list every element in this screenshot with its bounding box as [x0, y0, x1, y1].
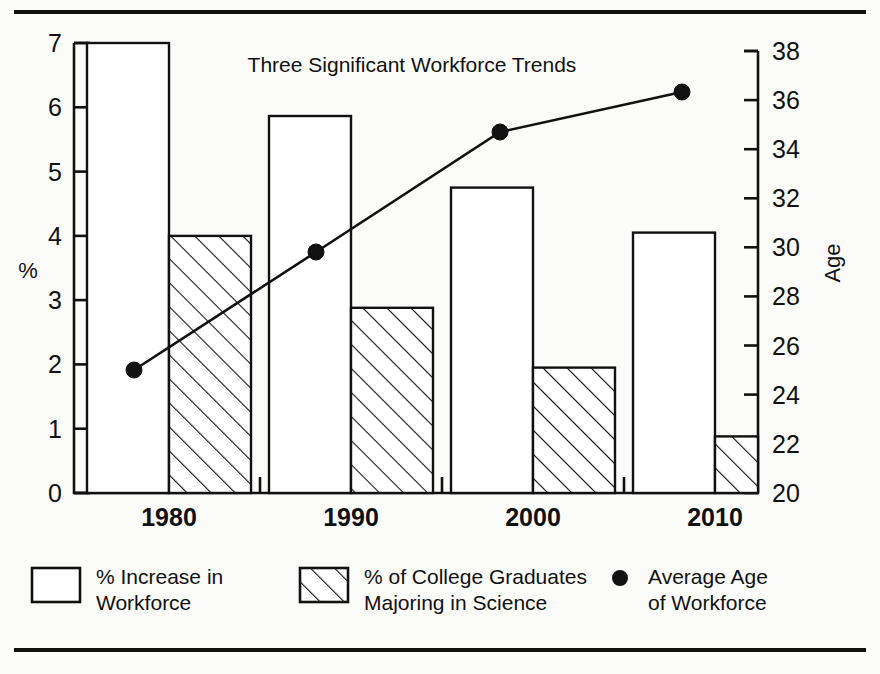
bottom-horizontal-rule	[14, 648, 866, 652]
average-age-point-1990[interactable]	[308, 244, 324, 260]
right-tick-label-20: 20	[772, 479, 800, 507]
legend-item-college-graduates[interactable]: % of College Graduates Majoring in Scien…	[300, 565, 587, 614]
category-label-1990: 1990	[323, 503, 379, 531]
chart-page: 7 6 5 4 3 2 1 0 %	[0, 0, 880, 674]
right-tick-label-32: 32	[772, 184, 800, 212]
average-age-point-2000[interactable]	[492, 124, 508, 140]
hatched-bar-1990[interactable]	[351, 308, 433, 493]
right-tick-label-24: 24	[772, 381, 800, 409]
hatched-square-swatch-icon	[300, 568, 348, 602]
open-square-swatch-icon	[32, 568, 80, 602]
filled-dot-swatch-icon	[612, 570, 628, 586]
left-axis-title: %	[18, 258, 38, 283]
average-age-point-2010[interactable]	[674, 84, 690, 100]
open-bar-2000[interactable]	[451, 188, 533, 493]
average-age-point-1980[interactable]	[126, 362, 142, 378]
left-tick-label-2: 2	[48, 350, 62, 378]
right-tick-label-34: 34	[772, 135, 800, 163]
right-tick-label-28: 28	[772, 282, 800, 310]
right-tick-label-22: 22	[772, 430, 800, 458]
legend-label-increase-line2: Workforce	[96, 591, 191, 614]
category-label-2010: 2010	[687, 503, 743, 531]
legend-label-graduates-line1: % of College Graduates	[364, 565, 587, 588]
left-tick-label-1: 1	[48, 415, 62, 443]
chart-figure: 7 6 5 4 3 2 1 0 %	[0, 18, 880, 638]
right-axis-ticks	[744, 51, 758, 493]
legend-item-increase-in-workforce[interactable]: % Increase in Workforce	[32, 565, 223, 614]
bar-group-1980	[87, 43, 251, 493]
left-tick-label-4: 4	[48, 222, 62, 250]
bar-group-2000	[451, 188, 615, 493]
legend-label-average-age-line2: of Workforce	[648, 591, 767, 614]
open-bar-1980[interactable]	[87, 43, 169, 493]
chart-title: Three Significant Workforce Trends	[248, 53, 577, 76]
hatched-bar-2000[interactable]	[533, 368, 615, 493]
left-axis: 7 6 5 4 3 2 1 0 %	[18, 29, 90, 507]
left-tick-label-7: 7	[48, 29, 62, 57]
legend-label-graduates-line2: Majoring in Science	[364, 591, 547, 614]
left-tick-label-5: 5	[48, 158, 62, 186]
legend-item-average-age[interactable]: Average Age of Workforce	[612, 565, 768, 614]
open-bar-1990[interactable]	[269, 116, 351, 493]
x-axis-category-labels: 1980 1990 2000 2010	[141, 503, 743, 531]
left-tick-label-3: 3	[48, 286, 62, 314]
bar-group-2010	[633, 233, 758, 493]
left-tick-label-0: 0	[48, 479, 62, 507]
legend-label-average-age-line1: Average Age	[648, 565, 768, 588]
right-tick-label-36: 36	[772, 86, 800, 114]
legend-label-increase-line1: % Increase in	[96, 565, 223, 588]
right-tick-label-26: 26	[772, 332, 800, 360]
top-horizontal-rule	[14, 10, 866, 14]
category-label-1980: 1980	[141, 503, 197, 531]
left-tick-label-6: 6	[48, 93, 62, 121]
hatched-bar-2010[interactable]	[715, 436, 758, 493]
hatched-bar-1980[interactable]	[169, 236, 251, 493]
right-tick-label-30: 30	[772, 233, 800, 261]
right-tick-label-38: 38	[772, 37, 800, 65]
category-label-2000: 2000	[505, 503, 561, 531]
right-axis-title: Age	[820, 243, 845, 282]
bar-group-1990	[269, 116, 433, 493]
chart-legend: % Increase in Workforce % of College Gra…	[32, 565, 768, 614]
open-bar-2010[interactable]	[633, 233, 715, 493]
